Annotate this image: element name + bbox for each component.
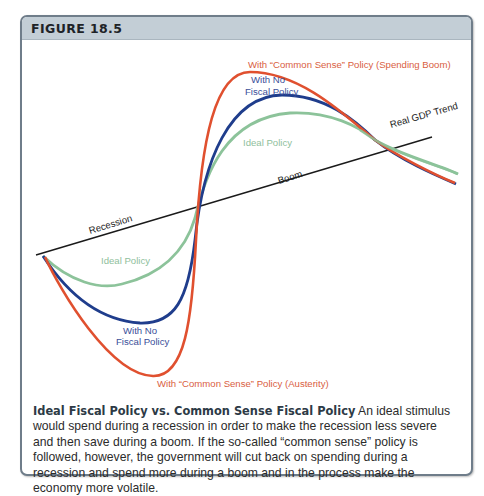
label-ideal-policy-top: Ideal Policy xyxy=(243,137,292,148)
caption-title: Ideal Fiscal Policy vs. Common Sense Fis… xyxy=(33,404,355,418)
label-real-gdp-trend: Real GDP Trend xyxy=(389,100,460,130)
real-gdp-trend-line xyxy=(36,137,432,255)
label-boom: Boom xyxy=(276,168,303,186)
label-no-fiscal-policy-bottom-line2: Fiscal Policy xyxy=(116,336,170,347)
label-ideal-policy-bottom: Ideal Policy xyxy=(101,255,150,266)
ideal-policy-curve-overlay xyxy=(360,130,458,174)
label-common-sense-spending-boom: With “Common Sense” Policy (Spending Boo… xyxy=(248,59,451,70)
figure-caption: Ideal Fiscal Policy vs. Common Sense Fis… xyxy=(33,404,457,496)
label-no-fiscal-policy-top-line2: Fiscal Policy xyxy=(245,86,299,97)
label-common-sense-austerity: With “Common Sense” Policy (Austerity) xyxy=(157,378,329,389)
label-no-fiscal-policy-top-line1: With No xyxy=(251,74,285,85)
label-no-fiscal-policy-bottom-line1: With No xyxy=(123,325,157,336)
